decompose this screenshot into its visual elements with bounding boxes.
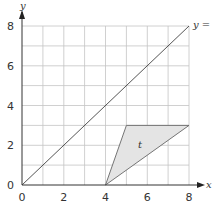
x-axis-arrow-icon [197,182,205,188]
y-tick-6: 6 [7,60,14,73]
y-axis-label: y [19,0,26,11]
x-tick-4: 4 [102,191,109,204]
x-tick-8: 8 [186,191,193,204]
x-tick-6: 6 [144,191,151,204]
line-label: y = . [192,19,213,30]
y-tick-4: 4 [7,100,14,113]
x-tick-2: 2 [60,191,67,204]
y-tick-0: 0 [7,179,14,192]
y-tick-8: 8 [7,20,14,33]
y-tick-2: 2 [7,139,14,152]
coordinate-plane: x y 0 2 4 6 8 0 2 4 6 8 y = . t [0,0,213,206]
y-axis-arrow-icon [19,10,25,19]
x-tick-0: 0 [19,191,26,204]
x-axis-label: x [206,179,212,190]
